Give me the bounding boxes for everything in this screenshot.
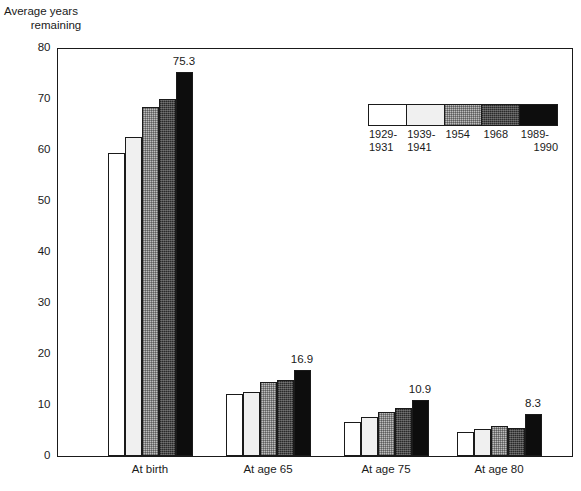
bar[interactable] [108, 153, 125, 456]
bar-group: 16.9 [226, 48, 311, 456]
legend-label-line1: 1968 [484, 128, 508, 140]
x-axis-category-label: At age 75 [331, 463, 441, 475]
y-axis-tick-label: 10 [11, 399, 51, 411]
bar-value-label: 8.3 [525, 398, 541, 410]
legend-label-line2: 1931 [369, 141, 406, 154]
legend-label: 1954 [444, 128, 482, 153]
legend-medium-gray-swatch [445, 105, 483, 125]
bar[interactable] [344, 422, 361, 456]
legend-label: 1968 [483, 128, 521, 153]
y-axis-title: Average years remaining [4, 4, 124, 32]
legend-white-swatch [369, 105, 407, 125]
bar[interactable]: 10.9 [412, 400, 429, 456]
legend-label-line1: 1989- [521, 128, 558, 141]
bar[interactable]: 75.3 [176, 72, 193, 456]
y-axis-title-line1: Average years [4, 4, 124, 18]
bar-value-label: 10.9 [409, 384, 431, 396]
y-axis-tick-label: 70 [11, 93, 51, 105]
legend-label: 1929-1931 [368, 128, 406, 153]
bar[interactable] [125, 137, 142, 456]
bar[interactable] [277, 380, 294, 456]
legend-swatch-row [368, 104, 558, 126]
bar[interactable] [260, 382, 277, 456]
bar[interactable]: 8.3 [525, 414, 542, 456]
bar-value-label: 75.3 [173, 56, 195, 68]
legend-label-line2: 1990 [521, 141, 558, 154]
bar-group: 75.3 [108, 48, 193, 456]
legend-dark-gray-swatch [482, 105, 520, 125]
x-axis-category-label: At age 80 [444, 463, 554, 475]
legend-label-line1: 1939- [407, 128, 435, 140]
bar-value-label: 16.9 [291, 354, 313, 366]
bar[interactable] [243, 392, 260, 456]
bar[interactable] [226, 394, 243, 456]
bar[interactable] [457, 432, 474, 456]
legend-light-gray-swatch [407, 105, 445, 125]
bar[interactable]: 16.9 [294, 370, 311, 456]
legend-label-row: 1929-19311939-1941195419681989-1990 [368, 128, 558, 153]
bar[interactable] [395, 408, 412, 456]
bar[interactable] [159, 99, 176, 456]
legend-black-swatch [520, 105, 557, 125]
legend-label-line1: 1929- [369, 128, 397, 140]
y-axis-title-line2: remaining [4, 18, 124, 32]
bar[interactable] [508, 428, 525, 456]
y-axis-tick-label: 30 [11, 297, 51, 309]
y-axis-tick-label: 0 [11, 450, 51, 462]
bar[interactable] [361, 417, 378, 456]
bar-group-bars: 16.9 [226, 48, 311, 456]
bar-group-bars: 75.3 [108, 48, 193, 456]
y-axis-tick-label: 80 [11, 42, 51, 54]
bar[interactable] [378, 412, 395, 456]
chart-legend: 1929-19311939-1941195419681989-1990 [368, 104, 558, 153]
legend-label: 1989-1990 [521, 128, 558, 153]
y-axis-tick-label: 20 [11, 348, 51, 360]
bar[interactable] [142, 107, 159, 456]
y-axis-tick-label: 40 [11, 246, 51, 258]
y-axis-tick-label: 60 [11, 144, 51, 156]
bar[interactable] [491, 426, 508, 456]
legend-label-line2: 1941 [407, 141, 444, 154]
bar[interactable] [474, 429, 491, 456]
y-axis-tick-label: 50 [11, 195, 51, 207]
x-axis-category-label: At age 65 [213, 463, 323, 475]
legend-label: 1939-1941 [406, 128, 444, 153]
legend-label-line1: 1954 [445, 128, 469, 140]
x-axis-category-label: At birth [95, 463, 205, 475]
